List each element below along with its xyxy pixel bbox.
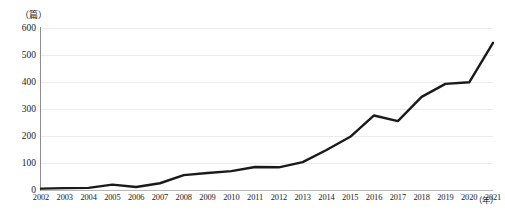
x-axis-tick-labels: 2002200320042005200620072008200920102011… bbox=[41, 193, 493, 209]
x-tick-label-2009: 2009 bbox=[199, 193, 215, 202]
x-tick-label-2008: 2008 bbox=[176, 193, 192, 202]
x-axis-unit-label: （年） bbox=[474, 193, 498, 205]
y-axis-unit-label: （篇） bbox=[20, 8, 48, 21]
x-tick-label-2015: 2015 bbox=[342, 193, 358, 202]
x-tick-label-2010: 2010 bbox=[223, 193, 239, 202]
data-line bbox=[41, 43, 493, 189]
y-tick-label-400: 400 bbox=[2, 77, 36, 87]
x-tick-label-2005: 2005 bbox=[104, 193, 120, 202]
x-tick-label-2016: 2016 bbox=[366, 193, 382, 202]
x-tick-label-2003: 2003 bbox=[57, 193, 73, 202]
y-tick-label-300: 300 bbox=[2, 104, 36, 114]
y-tick-label-600: 600 bbox=[2, 23, 36, 33]
x-tick-label-2012: 2012 bbox=[271, 193, 287, 202]
y-tick-label-0: 0 bbox=[2, 185, 36, 195]
y-tick-label-500: 500 bbox=[2, 50, 36, 60]
x-tick-label-2002: 2002 bbox=[33, 193, 49, 202]
x-tick-label-2011: 2011 bbox=[247, 193, 263, 202]
x-tick-label-2013: 2013 bbox=[294, 193, 310, 202]
line-chart: （篇） 0100200300400500600 2002200320042005… bbox=[0, 0, 505, 217]
x-tick-label-2014: 2014 bbox=[318, 193, 334, 202]
series-line-publications bbox=[41, 28, 493, 190]
gridline-0 bbox=[41, 190, 493, 191]
x-tick-label-2004: 2004 bbox=[80, 193, 96, 202]
y-tick-label-200: 200 bbox=[2, 131, 36, 141]
y-axis-tick-labels: 0100200300400500600 bbox=[0, 28, 36, 190]
x-tick-label-2018: 2018 bbox=[413, 193, 429, 202]
x-tick-label-2017: 2017 bbox=[390, 193, 406, 202]
x-tick-label-2006: 2006 bbox=[128, 193, 144, 202]
plot-area bbox=[41, 28, 493, 190]
x-tick-label-2007: 2007 bbox=[152, 193, 168, 202]
x-tick-label-2019: 2019 bbox=[437, 193, 453, 202]
y-tick-label-100: 100 bbox=[2, 158, 36, 168]
